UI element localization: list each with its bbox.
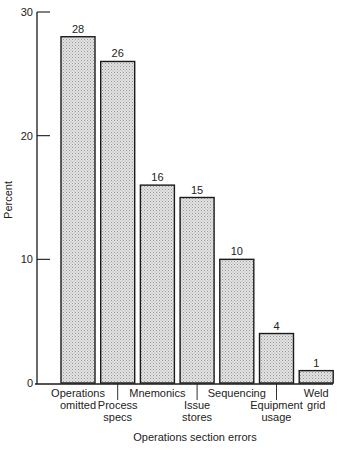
x-category-label: Equipment	[250, 399, 303, 411]
bar-chart: 0102030 282616151041 OperationsomittedPr…	[0, 0, 353, 455]
x-category-label: specs	[103, 411, 132, 423]
x-category-label: Operations	[51, 387, 105, 399]
bars: 282616151041	[61, 23, 333, 383]
bar-weld-grid	[299, 371, 333, 383]
x-category-label: Mnemonics	[129, 387, 186, 399]
y-axis-title: Percent	[2, 181, 14, 219]
bar-value-label: 28	[72, 23, 84, 35]
x-category-label: Weld	[304, 387, 329, 399]
bar-issue-stores	[180, 198, 214, 384]
y-tick-label: 10	[21, 253, 33, 265]
x-category-label: omitted	[60, 399, 96, 411]
x-category-label: Issue	[184, 399, 210, 411]
bar-value-label: 1	[313, 357, 319, 369]
bar-mnemonics	[140, 185, 174, 383]
y-tick-label: 30	[21, 6, 33, 18]
bar-sequencing	[220, 259, 254, 383]
bar-value-label: 10	[231, 245, 243, 257]
y-axis: 0102030	[21, 6, 50, 389]
x-category-label: grid	[307, 399, 325, 411]
x-category-label: usage	[262, 411, 292, 423]
y-tick-label: 20	[21, 130, 33, 142]
x-axis: OperationsomittedProcessspecsMnemonicsIs…	[35, 384, 333, 423]
bar-value-label: 16	[151, 171, 163, 183]
bar-value-label: 26	[112, 47, 124, 59]
y-tick-label: 0	[27, 377, 33, 389]
bar-value-label: 15	[191, 184, 203, 196]
x-category-label: stores	[182, 411, 212, 423]
x-category-label: Sequencing	[208, 387, 266, 399]
bar-equipment-usage	[260, 334, 294, 383]
x-category-label: Process	[98, 399, 138, 411]
bar-value-label: 4	[273, 320, 279, 332]
bar-operations-omitted	[61, 37, 95, 383]
bar-process-specs	[101, 61, 135, 383]
x-axis-title: Operations section errors	[133, 431, 257, 443]
